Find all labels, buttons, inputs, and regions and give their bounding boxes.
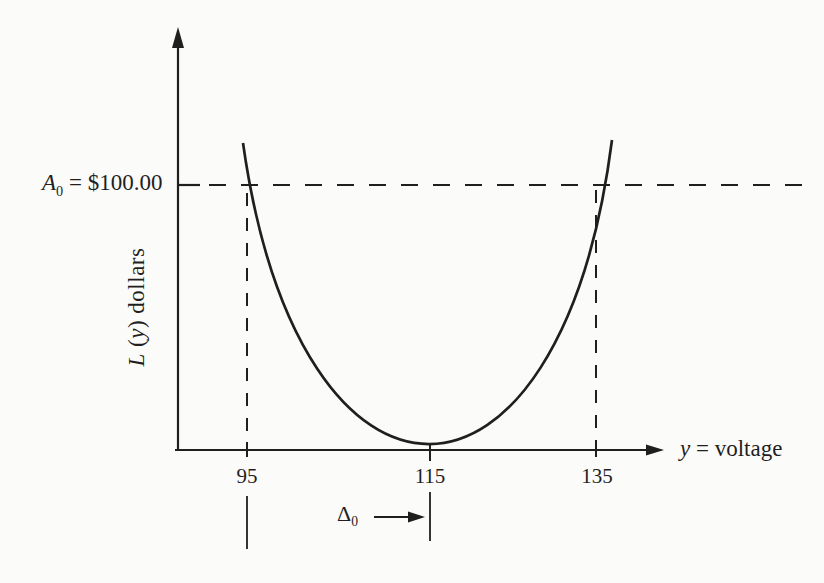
y-axis-title: L (y) dollars [124,248,150,367]
x-tick-label-115: 115 [415,464,446,488]
x-axis-title-variable: y [680,436,690,461]
x-axis-title: y = voltage [680,436,782,462]
y-axis-title-open-paren: ( [124,339,149,353]
y-axis-title-inner-variable: y [124,328,149,339]
a0-variable: A [42,170,56,195]
y-axis-title-variable: L [124,353,149,366]
delta0-label: Δ0 [337,501,358,526]
scanned-loss-function-figure: A0 = $100.00 L (y) dollars 95 115 135 y … [0,0,824,583]
loss-curve [243,140,612,444]
x-axis-arrowhead-icon [646,445,664,456]
x-tick-label-95: 95 [237,464,258,488]
a0-loss-value-label: A0 = $100.00 [42,170,162,196]
x-tick-label-135: 135 [581,464,613,488]
delta0-symbol: Δ [337,501,351,526]
y-axis-arrowhead-icon [172,27,184,48]
x-axis-title-units: = voltage [690,436,782,461]
y-axis-title-units: ) dollars [124,248,149,329]
delta0-arrowhead-icon [408,512,425,523]
a0-value: = $100.00 [63,170,162,195]
delta0-subscript: 0 [351,514,358,529]
